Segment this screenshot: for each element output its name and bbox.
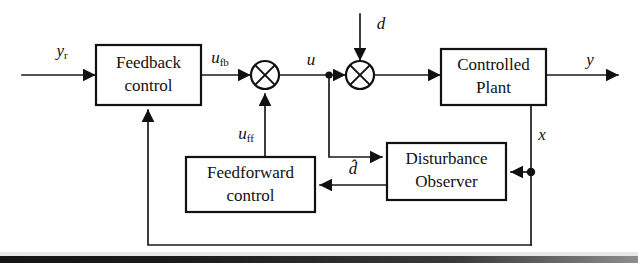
- block-feedback-control[interactable]: Feedback control: [96, 45, 201, 105]
- block-disturbance-observer[interactable]: Disturbance Observer: [387, 143, 506, 200]
- signal-label-control-input: u: [307, 50, 316, 69]
- sum-junction-u-d[interactable]: [346, 61, 374, 89]
- feedback-control-label-line2: control: [124, 76, 172, 95]
- signal-label-plant-output: y: [584, 50, 594, 69]
- page-edge-shadow: [0, 252, 638, 256]
- signal-label-feedforward-command: uff: [238, 124, 254, 144]
- state-tap-node: [527, 168, 535, 176]
- feedforward-control-label-line2: control: [226, 186, 274, 205]
- signal-label-estimated-disturbance: d̂: [349, 158, 358, 177]
- feedback-control-label-line1: Feedback: [116, 53, 182, 72]
- control-block-diagram: Feedback control Controlled Plant Feedfo…: [0, 0, 638, 266]
- wire-state-to-observer: [511, 105, 535, 245]
- block-controlled-plant[interactable]: Controlled Plant: [441, 49, 546, 105]
- disturbance-observer-label-line2: Observer: [415, 172, 478, 191]
- sum-junction-ufb-uff[interactable]: [251, 61, 279, 89]
- block-feedforward-control[interactable]: Feedforward control: [186, 157, 315, 212]
- u-tap-node: [325, 71, 332, 78]
- disturbance-observer-label-line1: Disturbance: [405, 149, 487, 168]
- signal-label-disturbance: d: [377, 14, 386, 33]
- page-edge-artifact: [0, 256, 638, 263]
- signal-label-feedback-command: ufb: [211, 48, 229, 68]
- controlled-plant-label-line2: Plant: [476, 78, 511, 97]
- signal-label-reference: yr: [54, 41, 68, 61]
- signal-label-state: x: [537, 125, 546, 144]
- feedforward-control-label-line1: Feedforward: [207, 163, 294, 182]
- controlled-plant-label-line1: Controlled: [457, 55, 530, 74]
- diagram-canvas: Feedback control Controlled Plant Feedfo…: [0, 0, 638, 266]
